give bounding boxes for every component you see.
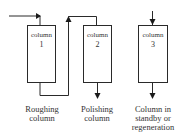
column-1-label: column xyxy=(31,31,52,39)
arrow-down-icon xyxy=(95,93,101,99)
caption-column-1-line-2: column xyxy=(29,113,55,123)
arrow-down-icon xyxy=(150,19,156,25)
arrow-down-icon xyxy=(150,93,156,99)
column-3-number: 3 xyxy=(151,40,155,49)
caption-column-3-line-3: regeneration xyxy=(132,122,175,132)
inlet-line-column-1 xyxy=(9,16,40,25)
caption-column-2-line-2: column xyxy=(84,113,110,123)
column-2-number: 2 xyxy=(96,40,100,49)
ion-exchange-column-diagram: column 1 column 2 column 3 Roughing colu… xyxy=(0,0,183,140)
column-2-label: column xyxy=(87,31,108,39)
column-1-number: 1 xyxy=(40,40,44,49)
column-3-label: column xyxy=(143,31,164,39)
